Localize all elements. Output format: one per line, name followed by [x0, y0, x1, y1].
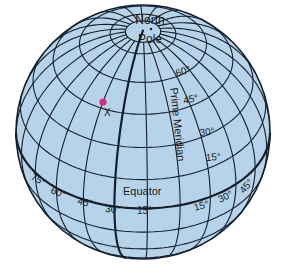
north-pole-label-line1: North — [135, 13, 164, 27]
globe-diagram: North Pole Prime Meridian 60° 45° 30° 15… — [0, 0, 285, 277]
west-longitude-label-15: 15° — [137, 205, 152, 216]
equator-label: Equator — [123, 185, 162, 197]
west-longitude-label-30: 30° — [105, 203, 121, 215]
north-pole-dot — [150, 28, 153, 31]
north-pole-label-line2: Pole — [138, 32, 162, 46]
latitude-label-15: 15° — [205, 151, 221, 163]
point-x-label: X — [104, 107, 111, 118]
point-x-marker — [99, 98, 106, 105]
latitude-label-30: 30° — [199, 125, 215, 138]
